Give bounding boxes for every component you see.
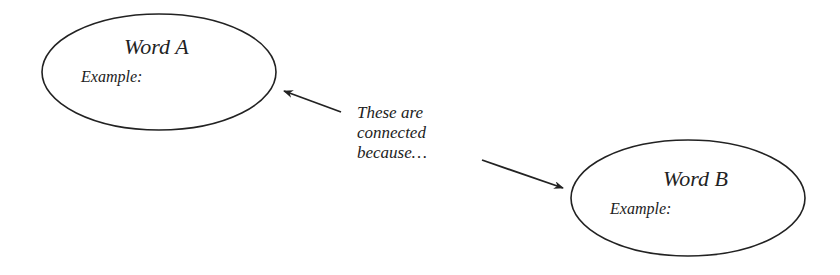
- word-b-ellipse: [571, 140, 805, 256]
- arrow-to-word-b: [482, 160, 563, 188]
- word-b-example-label: Example:: [610, 200, 671, 218]
- connector-line-3: because…: [357, 143, 467, 163]
- word-a-example-label: Example:: [81, 68, 142, 86]
- word-a-ellipse: [42, 14, 276, 130]
- word-b-title: Word B: [663, 166, 728, 192]
- word-a-title: Word A: [124, 34, 189, 60]
- connector-text: These are connected because…: [357, 103, 467, 163]
- connector-line-2: connected: [357, 123, 467, 143]
- connector-line-1: These are: [357, 103, 467, 123]
- arrow-to-word-a: [284, 91, 341, 112]
